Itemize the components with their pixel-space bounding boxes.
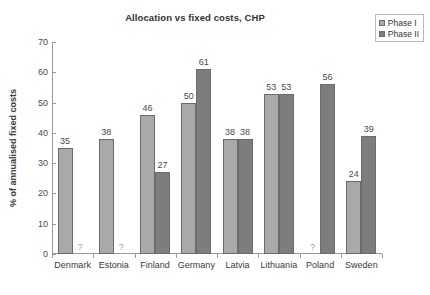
x-axis-label-estonia: Estonia [99, 260, 129, 270]
bar-group: 5061 [176, 42, 217, 254]
bar-slot: 53 [279, 42, 294, 254]
y-tick-label: 30 [26, 158, 48, 168]
bar-slot: ? [305, 42, 320, 254]
bar-slot: 50 [181, 42, 196, 254]
bar-lithuania-phase-2 [279, 94, 294, 255]
bar-group-inner: 5353 [258, 42, 299, 254]
bar-group: 4627 [135, 42, 176, 254]
y-tick-label: 60 [26, 67, 48, 77]
x-axis-label-germany: Germany [178, 260, 215, 270]
bar-slot: 56 [320, 42, 335, 254]
y-tick-label: 50 [26, 98, 48, 108]
bar-lithuania-phase-1 [264, 94, 279, 255]
bar-group: 35? [52, 42, 93, 254]
bar-value-label: 50 [184, 91, 194, 101]
bar-chart: Allocation vs fixed costs, CHP Phase I P… [0, 0, 430, 295]
x-tick-mark [382, 254, 383, 258]
x-axis-label-denmark: Denmark [54, 260, 91, 270]
x-tick-mark [341, 254, 342, 258]
missing-value-marker: ? [78, 242, 83, 252]
x-tick-mark [52, 254, 53, 258]
x-tick-mark [300, 254, 301, 258]
bar-estonia-phase-1 [99, 139, 114, 254]
bar-slot: ? [73, 42, 88, 254]
x-tick-mark [135, 254, 136, 258]
y-axis-title-text: % of annualised fixed costs [8, 89, 18, 207]
bar-value-label: 27 [158, 160, 168, 170]
bar-finland-phase-1 [140, 115, 155, 254]
x-tick-mark [176, 254, 177, 258]
bar-value-label: 38 [101, 127, 111, 137]
bar-group-inner: 35? [52, 42, 93, 254]
bar-group: 38? [93, 42, 134, 254]
chart-title: Allocation vs fixed costs, CHP [0, 12, 390, 23]
bar-group-inner: 5061 [176, 42, 217, 254]
legend-swatch-phase-2 [379, 31, 385, 37]
legend-item-phase-2: Phase II [379, 28, 419, 39]
bar-latvia-phase-2 [238, 139, 253, 254]
bar-slot: 38 [223, 42, 238, 254]
bar-slot: 53 [264, 42, 279, 254]
x-axis-label-poland: Poland [306, 260, 334, 270]
bar-value-label: 39 [364, 124, 374, 134]
x-tick-mark [217, 254, 218, 258]
bar-group-inner: 4627 [135, 42, 176, 254]
x-tick-mark [93, 254, 94, 258]
bar-value-label: 46 [143, 103, 153, 113]
bar-slot: 24 [346, 42, 361, 254]
bar-group-inner: 38? [93, 42, 134, 254]
bar-value-label: 56 [323, 72, 333, 82]
bar-slot: ? [114, 42, 129, 254]
y-tick-label: 0 [26, 249, 48, 259]
bar-value-label: 53 [266, 82, 276, 92]
missing-value-marker: ? [119, 242, 124, 252]
bar-slot: 38 [238, 42, 253, 254]
x-axis-label-sweden: Sweden [345, 260, 378, 270]
bar-value-label: 24 [349, 169, 359, 179]
bar-group: ?56 [300, 42, 341, 254]
x-axis-label-lithuania: Lithuania [261, 260, 298, 270]
bar-germany-phase-2 [196, 69, 211, 254]
missing-value-marker: ? [310, 242, 315, 252]
bar-group-inner: 3838 [217, 42, 258, 254]
bar-slot: 27 [155, 42, 170, 254]
bar-slot: 39 [361, 42, 376, 254]
x-axis-label-latvia: Latvia [226, 260, 250, 270]
bar-group: 5353 [258, 42, 299, 254]
bar-slot: 35 [58, 42, 73, 254]
y-tick-label: 40 [26, 128, 48, 138]
bar-slot: 61 [196, 42, 211, 254]
y-tick-label: 10 [26, 219, 48, 229]
bar-finland-phase-2 [155, 172, 170, 254]
bar-value-label: 35 [60, 136, 70, 146]
bar-value-label: 53 [281, 82, 291, 92]
y-tick-label: 70 [26, 37, 48, 47]
bar-value-label: 38 [240, 127, 250, 137]
bar-poland-phase-2 [320, 84, 335, 254]
bar-latvia-phase-1 [223, 139, 238, 254]
bar-slot: 38 [99, 42, 114, 254]
bar-value-label: 38 [225, 127, 235, 137]
legend-label-phase-2: Phase II [388, 29, 419, 39]
legend-item-phase-1: Phase I [379, 17, 419, 28]
bar-germany-phase-1 [181, 103, 196, 254]
bar-denmark-phase-1 [58, 148, 73, 254]
legend-swatch-phase-1 [379, 20, 385, 26]
bar-value-label: 61 [199, 57, 209, 67]
bar-group: 3838 [217, 42, 258, 254]
chart-legend: Phase I Phase II [375, 14, 424, 42]
plot-area: 706050403020100 35?38?4627506138385353?5… [52, 42, 382, 254]
bar-group: 2439 [341, 42, 382, 254]
legend-label-phase-1: Phase I [388, 18, 417, 28]
bar-sweden-phase-2 [361, 136, 376, 254]
y-axis-title: % of annualised fixed costs [6, 42, 20, 254]
x-axis-label-finland: Finland [140, 260, 170, 270]
bar-sweden-phase-1 [346, 181, 361, 254]
bar-slot: 46 [140, 42, 155, 254]
bar-group-inner: 2439 [341, 42, 382, 254]
y-tick-label: 20 [26, 188, 48, 198]
bar-group-inner: ?56 [300, 42, 341, 254]
x-tick-mark [258, 254, 259, 258]
